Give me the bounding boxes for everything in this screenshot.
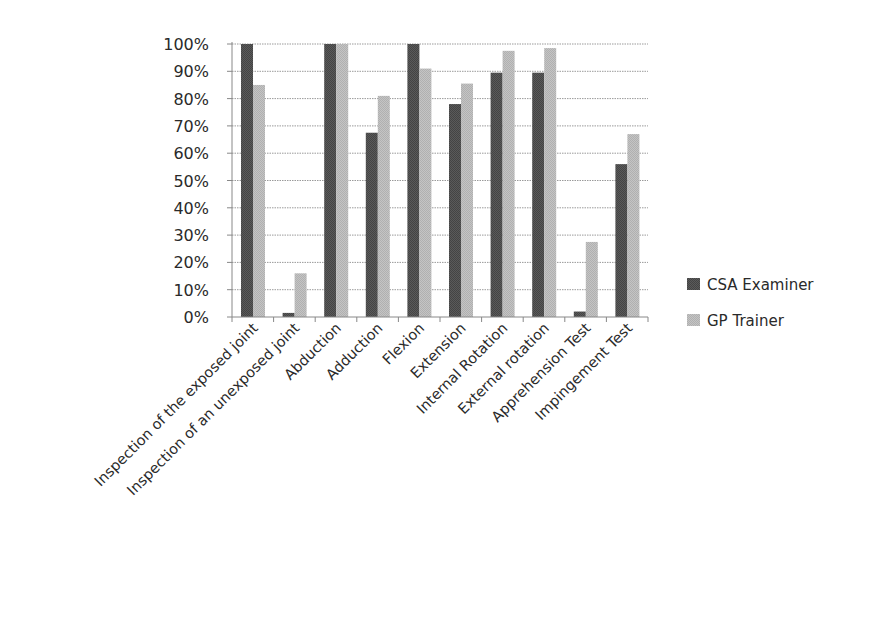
bar-gp-trainer bbox=[378, 96, 390, 317]
legend-swatch bbox=[687, 278, 700, 290]
y-tick-label: 20% bbox=[173, 253, 209, 272]
y-tick-label: 0% bbox=[184, 308, 209, 327]
bar-gp-trainer bbox=[503, 51, 515, 317]
y-tick-label: 90% bbox=[173, 62, 209, 81]
y-tick-label: 60% bbox=[173, 144, 209, 163]
bar-csa-examiner bbox=[324, 44, 336, 317]
bar-csa-examiner bbox=[574, 312, 586, 317]
y-tick-label: 80% bbox=[173, 90, 209, 109]
y-tick-label: 50% bbox=[173, 172, 209, 191]
bar-gp-trainer bbox=[336, 44, 348, 317]
y-tick-label: 100% bbox=[163, 35, 209, 54]
x-tick-label: Inspection of an unexposed joint bbox=[124, 320, 303, 499]
gridlines bbox=[232, 44, 648, 290]
bar-csa-examiner bbox=[615, 164, 627, 317]
legend-label: CSA Examiner bbox=[707, 276, 814, 294]
bar-gp-trainer bbox=[627, 134, 639, 317]
bar-gp-trainer bbox=[586, 242, 598, 317]
legend: CSA ExaminerGP Trainer bbox=[687, 276, 814, 330]
bar-csa-examiner bbox=[449, 104, 461, 317]
bar-gp-trainer bbox=[544, 48, 556, 317]
y-tick-label: 70% bbox=[173, 117, 209, 136]
x-tick-label: Inspection of the exposed joint bbox=[91, 320, 261, 490]
bar-csa-examiner bbox=[241, 44, 253, 317]
bar-csa-examiner bbox=[283, 313, 295, 317]
bar-gp-trainer bbox=[419, 69, 431, 317]
bar-csa-examiner bbox=[532, 73, 544, 317]
bar-chart: 0%10%20%30%40%50%60%70%80%90%100% Inspec… bbox=[0, 0, 890, 635]
y-tick-label: 10% bbox=[173, 281, 209, 300]
bar-gp-trainer bbox=[295, 273, 307, 317]
legend-swatch bbox=[687, 314, 700, 326]
bar-csa-examiner bbox=[407, 44, 419, 317]
bar-csa-examiner bbox=[366, 133, 378, 317]
x-axis: Inspection of the exposed jointInspectio… bbox=[91, 317, 648, 498]
bar-gp-trainer bbox=[461, 84, 473, 317]
y-tick-label: 40% bbox=[173, 199, 209, 218]
y-axis: 0%10%20%30%40%50%60%70%80%90%100% bbox=[163, 35, 232, 327]
legend-label: GP Trainer bbox=[707, 312, 785, 330]
bar-csa-examiner bbox=[491, 73, 503, 317]
bar-gp-trainer bbox=[253, 85, 265, 317]
y-tick-label: 30% bbox=[173, 226, 209, 245]
